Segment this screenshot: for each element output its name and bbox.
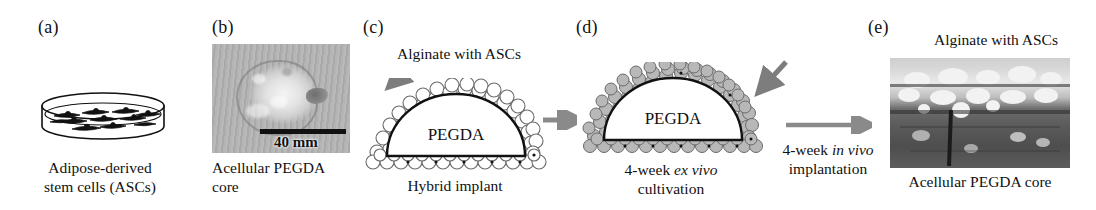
petri-dish-illustration [38,92,168,148]
panel-b-caption-line1: Acellular PEGDA [212,158,325,177]
histology-micrograph [890,58,1070,168]
panel-a-caption-line1: Adipose-derived [0,158,200,177]
panel-a: (a) [0,0,200,210]
tissue-fissure [947,110,953,166]
panel-letter-b: (b) [212,18,234,36]
core-dark-region [306,88,328,104]
ex-vivo-implant-diagram: PEGDA [580,62,766,158]
pegda-dome-label: PEGDA [428,125,485,144]
panel-letter-a: (a) [38,18,59,36]
panel-c: (c) Alginate with ASCs [355,0,555,210]
panel-c-alginate-label: Alginate with ASCs [369,44,549,63]
panel-a-caption-line2: stem cells (ASCs) [0,177,200,196]
panel-b: (b) 40 mm Acellular PEGDA core [200,0,355,210]
panel-d-caption-line1: 4-week ex vivo [576,160,766,179]
process-arrow-d-to-e [786,116,872,134]
figure-container: (a) [0,0,1096,210]
scale-bar-label: 40 mm [274,134,318,151]
panel-a-caption: Adipose-derived stem cells (ASCs) [0,158,200,197]
panel-e-alginate-label: Alginate with ASCs [898,30,1094,49]
panel-b-caption-line2: core [212,177,325,196]
panel-e-caption: Acellular PEGDA core [888,172,1072,191]
hybrid-implant-diagram: PEGDA [363,78,549,174]
panel-c-caption: Hybrid implant [365,176,545,195]
panel-d-caption-line2: cultivation [576,179,766,198]
pegda-dome-label: PEGDA [645,109,702,128]
panel-d: (d) [570,0,770,210]
panel-letter-e: (e) [868,18,889,36]
panel-d-caption: 4-week ex vivo cultivation [576,160,766,199]
panel-e: (e) Alginate with ASCs [862,0,1096,210]
panel-letter-d: (d) [576,18,598,36]
panel-b-caption: Acellular PEGDA core [212,158,325,197]
panel-letter-c: (c) [363,18,384,36]
pegda-core-photograph: 40 mm [212,44,350,153]
alginate-pointer-arrow [396,78,421,80]
